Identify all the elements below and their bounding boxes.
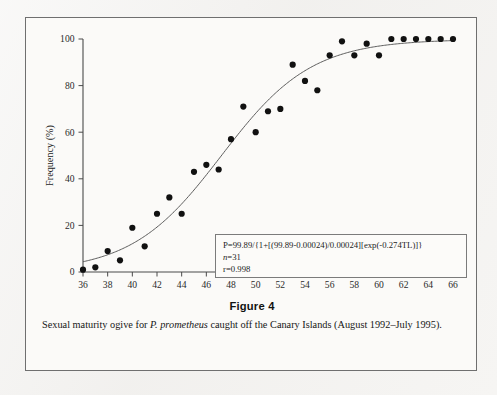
data-point <box>290 62 296 68</box>
data-point <box>179 211 185 217</box>
equation-annotation-box: P=99.89/{1+[(99.89-0.00024)/0.00024][exp… <box>215 234 467 278</box>
figure-caption: Sexual maturity ogive for P. prometheus … <box>42 318 462 332</box>
x-tick-label: 66 <box>448 279 458 290</box>
x-tick-label: 36 <box>78 279 88 290</box>
logistic-fit-curve <box>83 41 453 262</box>
data-point <box>216 166 222 172</box>
sample-size-line: n=31 <box>223 251 460 263</box>
data-point <box>302 78 308 84</box>
caption-lead: Sexual maturity ogive for <box>42 319 150 330</box>
data-point <box>376 52 382 58</box>
data-point <box>339 38 345 44</box>
data-point <box>253 129 259 135</box>
data-point <box>92 264 98 270</box>
data-point <box>105 248 111 254</box>
x-tick-label: 44 <box>177 279 187 290</box>
x-tick-label: 58 <box>350 279 360 290</box>
x-tick-label: 64 <box>424 279 434 290</box>
caption-tail: caught off the Canary Islands (August 19… <box>208 319 442 330</box>
equation-line: P=99.89/{1+[(99.89-0.00024)/0.00024][exp… <box>223 239 460 251</box>
data-point <box>129 225 135 231</box>
figure-number: Figure 4 <box>42 300 462 312</box>
x-tick-label: 40 <box>128 279 138 290</box>
caption-block: Figure 4 Sexual maturity ogive for P. pr… <box>26 300 478 332</box>
data-point <box>364 41 370 47</box>
data-point <box>413 36 419 42</box>
x-tick-label: 46 <box>202 279 212 290</box>
data-point <box>240 103 246 109</box>
x-tick-label: 62 <box>399 279 409 290</box>
data-point <box>203 162 209 168</box>
x-tick-label: 60 <box>374 279 384 290</box>
data-point <box>154 211 160 217</box>
x-tick-label: 42 <box>152 279 162 290</box>
data-point <box>425 36 431 42</box>
correlation-line: r=0.998 <box>223 263 460 275</box>
x-tick-label: 48 <box>226 279 236 290</box>
x-tick-label: 54 <box>300 279 310 290</box>
fitted-curve-group <box>83 41 453 262</box>
data-point <box>388 36 394 42</box>
data-point <box>277 106 283 112</box>
data-point <box>438 36 444 42</box>
data-point <box>450 36 456 42</box>
y-tick-label: 40 <box>65 173 75 184</box>
caption-species-name: P. prometheus <box>150 319 208 330</box>
figure-frame: 3638404244464850525456586062646602040608… <box>25 17 477 371</box>
data-point <box>327 52 333 58</box>
x-tick-label: 50 <box>251 279 261 290</box>
data-point <box>117 257 123 263</box>
data-point <box>314 87 320 93</box>
data-point <box>265 108 271 114</box>
x-tick-label: 52 <box>276 279 286 290</box>
y-tick-label: 80 <box>65 80 75 91</box>
x-tick-label: 56 <box>325 279 335 290</box>
y-tick-label: 20 <box>65 220 75 231</box>
data-point <box>401 36 407 42</box>
data-point <box>166 194 172 200</box>
y-axis-title: Frequency (%) <box>44 125 56 186</box>
data-point <box>142 243 148 249</box>
figure-page: 3638404244464850525456586062646602040608… <box>0 0 497 395</box>
data-point <box>80 267 86 273</box>
data-point <box>351 52 357 58</box>
y-tick-label: 60 <box>65 127 75 138</box>
data-point <box>191 169 197 175</box>
data-point <box>228 136 234 142</box>
n-value: =31 <box>227 252 241 262</box>
y-tick-label: 100 <box>60 33 75 44</box>
y-tick-label: 0 <box>70 266 75 277</box>
x-tick-label: 38 <box>103 279 113 290</box>
